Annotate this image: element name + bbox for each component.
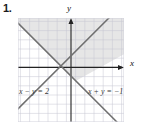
equation-label-right: x + y = −1 xyxy=(88,87,123,96)
coordinate-plot xyxy=(18,18,124,122)
equation-label-left: x − y = 2 xyxy=(19,87,49,96)
problem-number: 1. xyxy=(3,2,12,14)
coordinate-plane-svg xyxy=(18,18,124,122)
exercise-figure: 1. xyxy=(0,0,144,132)
x-axis-label: x xyxy=(130,58,134,68)
y-axis-label: y xyxy=(67,3,71,13)
